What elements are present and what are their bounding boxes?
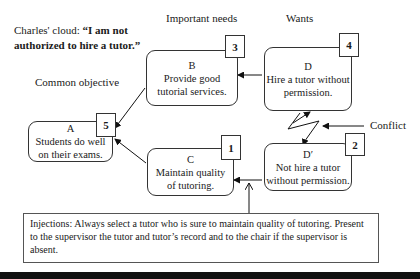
node-c-letter: C	[187, 153, 194, 166]
node-a-line1: Students do well	[36, 135, 106, 148]
node-a-letter: A	[67, 122, 75, 135]
node-d-prime-line2: without permission.	[266, 174, 349, 187]
node-a-line2: on their exams.	[38, 148, 102, 161]
bottom-rule	[0, 272, 420, 279]
node-d-number-badge: 4	[339, 33, 359, 57]
node-b-number-badge: 3	[225, 35, 245, 58]
conflict-label: Conflict	[370, 119, 406, 131]
node-d-letter: D	[304, 60, 312, 73]
node-b-line2: tutorial services.	[157, 85, 226, 98]
node-b-need: B Provide good tutorial services.	[146, 50, 238, 106]
injections-box: Injections: Always select a tutor who is…	[23, 213, 379, 263]
node-b-line1: Provide good	[164, 72, 220, 85]
node-d-prime-want: D′ Not hire a tutor without permission.	[264, 143, 352, 191]
node-b-letter: B	[188, 59, 195, 72]
node-d-prime-number-badge: 2	[345, 133, 365, 156]
injections-text: Injections: Always select a tutor who is…	[30, 218, 364, 255]
node-d-line2: permission.	[284, 86, 333, 99]
node-c-number-badge: 1	[221, 135, 241, 160]
node-d-line1: Hire a tutor without	[266, 73, 349, 86]
node-c-line1: Maintain quality	[156, 166, 226, 179]
node-d-prime-letter: D′	[303, 148, 313, 161]
node-a-number-badge: 5	[96, 113, 116, 137]
node-d-prime-line1: Not hire a tutor	[276, 161, 340, 174]
node-c-line2: of tutoring.	[167, 179, 214, 192]
